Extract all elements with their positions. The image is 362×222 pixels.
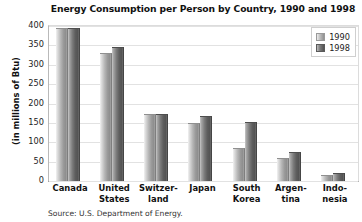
bar-group	[181, 26, 225, 181]
legend-label-1990: 1990	[329, 32, 350, 42]
x-category-label: Canada	[48, 183, 92, 194]
bar-1990	[188, 123, 200, 181]
legend-swatch-1998-icon	[316, 44, 325, 52]
y-tick-label: 100	[10, 136, 44, 146]
bar-1998	[112, 47, 124, 181]
bar-1990	[321, 175, 333, 181]
legend-item-1990: 1990	[316, 31, 350, 42]
x-category-label: Switzer-land	[136, 183, 180, 204]
bar-group	[137, 26, 181, 181]
source-note: Source: U.S. Department of Energy.	[48, 209, 183, 218]
legend-label-1998: 1998	[329, 43, 350, 53]
bar-1998	[156, 114, 168, 181]
y-tick-label: 250	[10, 78, 44, 88]
bar-1998	[68, 28, 80, 181]
y-tick-label: 350	[10, 39, 44, 49]
y-tick-label: 400	[10, 20, 44, 30]
x-category-label: Argen-tina	[269, 183, 313, 204]
bar-group	[226, 26, 270, 181]
gridline	[49, 181, 358, 182]
y-tick-label: 0	[10, 175, 44, 185]
x-category-label: Japan	[180, 183, 224, 194]
y-tick-label: 200	[10, 98, 44, 108]
x-category-label: Indo-nesia	[313, 183, 357, 204]
bar-1990	[100, 53, 112, 181]
bar-1998	[289, 152, 301, 181]
x-axis-category-labels: CanadaUnitedStatesSwitzer-landJapanSouth…	[48, 183, 359, 207]
legend-swatch-1990-icon	[316, 33, 325, 41]
bar-group	[49, 26, 93, 181]
x-category-label: SouthKorea	[225, 183, 269, 204]
y-tick-label: 50	[10, 156, 44, 166]
legend-item-1998: 1998	[316, 42, 350, 53]
energy-consumption-bar-chart: Energy Consumption per Person by Country…	[0, 0, 362, 222]
bar-1990	[56, 28, 68, 181]
bar-1990	[144, 114, 156, 181]
bar-group	[270, 26, 314, 181]
bar-1990	[233, 148, 245, 181]
chart-title: Energy Consumption per Person by Country…	[48, 3, 358, 14]
bar-group	[93, 26, 137, 181]
y-tick-label: 150	[10, 117, 44, 127]
bar-1998	[200, 116, 212, 181]
chart-legend: 1990 1998	[311, 27, 356, 57]
bar-1990	[277, 158, 289, 181]
bar-1998	[245, 122, 257, 181]
bar-1998	[333, 173, 345, 181]
x-category-label: UnitedStates	[92, 183, 136, 204]
y-tick-label: 300	[10, 59, 44, 69]
